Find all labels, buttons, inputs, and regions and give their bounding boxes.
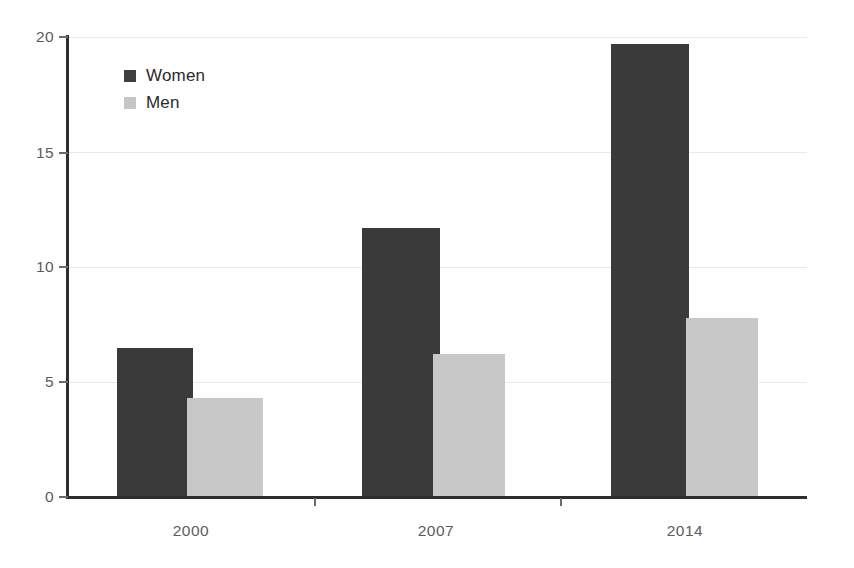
bar-men-2000[interactable] <box>187 398 263 497</box>
bar-group-2007 <box>362 37 558 497</box>
bar-group-2014 <box>611 37 807 497</box>
legend-label-men: Men <box>146 94 180 111</box>
y-tick-label-15: 15 <box>20 145 54 161</box>
legend-item-women[interactable]: Women <box>124 62 205 89</box>
y-tick-label-20: 20 <box>20 29 54 45</box>
y-tick-5 <box>59 381 68 383</box>
x-tick-1 <box>314 498 316 506</box>
bar-women-2000[interactable] <box>117 348 193 498</box>
chart-legend: Women Men <box>124 62 205 116</box>
x-tick-label-2014: 2014 <box>625 523 745 539</box>
legend-item-men[interactable]: Men <box>124 89 205 116</box>
bar-chart: 20 15 10 5 0 2000 2007 2014 Women Men <box>0 0 854 568</box>
bar-women-2007[interactable] <box>362 228 440 497</box>
bar-men-2014[interactable] <box>686 318 758 497</box>
bar-women-2014[interactable] <box>611 44 689 497</box>
women-swatch-icon <box>124 70 136 82</box>
bar-men-2007[interactable] <box>433 354 505 497</box>
x-tick-label-2000: 2000 <box>131 523 251 539</box>
y-tick-15 <box>59 152 68 154</box>
y-tick-label-10: 10 <box>20 259 54 275</box>
x-tick-label-2007: 2007 <box>376 523 496 539</box>
y-tick-label-5: 5 <box>20 374 54 390</box>
men-swatch-icon <box>124 97 136 109</box>
x-axis-line <box>66 496 807 499</box>
y-tick-label-0: 0 <box>20 489 54 505</box>
y-tick-10 <box>59 266 68 268</box>
y-tick-20 <box>59 36 68 38</box>
legend-label-women: Women <box>146 67 205 84</box>
y-tick-0 <box>59 496 68 498</box>
x-tick-2 <box>560 498 562 506</box>
